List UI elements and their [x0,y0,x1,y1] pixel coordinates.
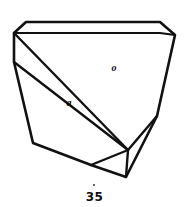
ink-speck [93,184,95,186]
figure-number: 35 [0,190,189,204]
face-label-a: a [63,98,75,108]
top-face-inner-edge [14,33,175,35]
crystal-drawing [0,0,189,207]
crystal-outline [14,22,175,177]
edge-bottom-inner-left [91,150,128,165]
crystal-figure: o a 35 [0,0,189,207]
face-label-o: o [108,63,120,73]
